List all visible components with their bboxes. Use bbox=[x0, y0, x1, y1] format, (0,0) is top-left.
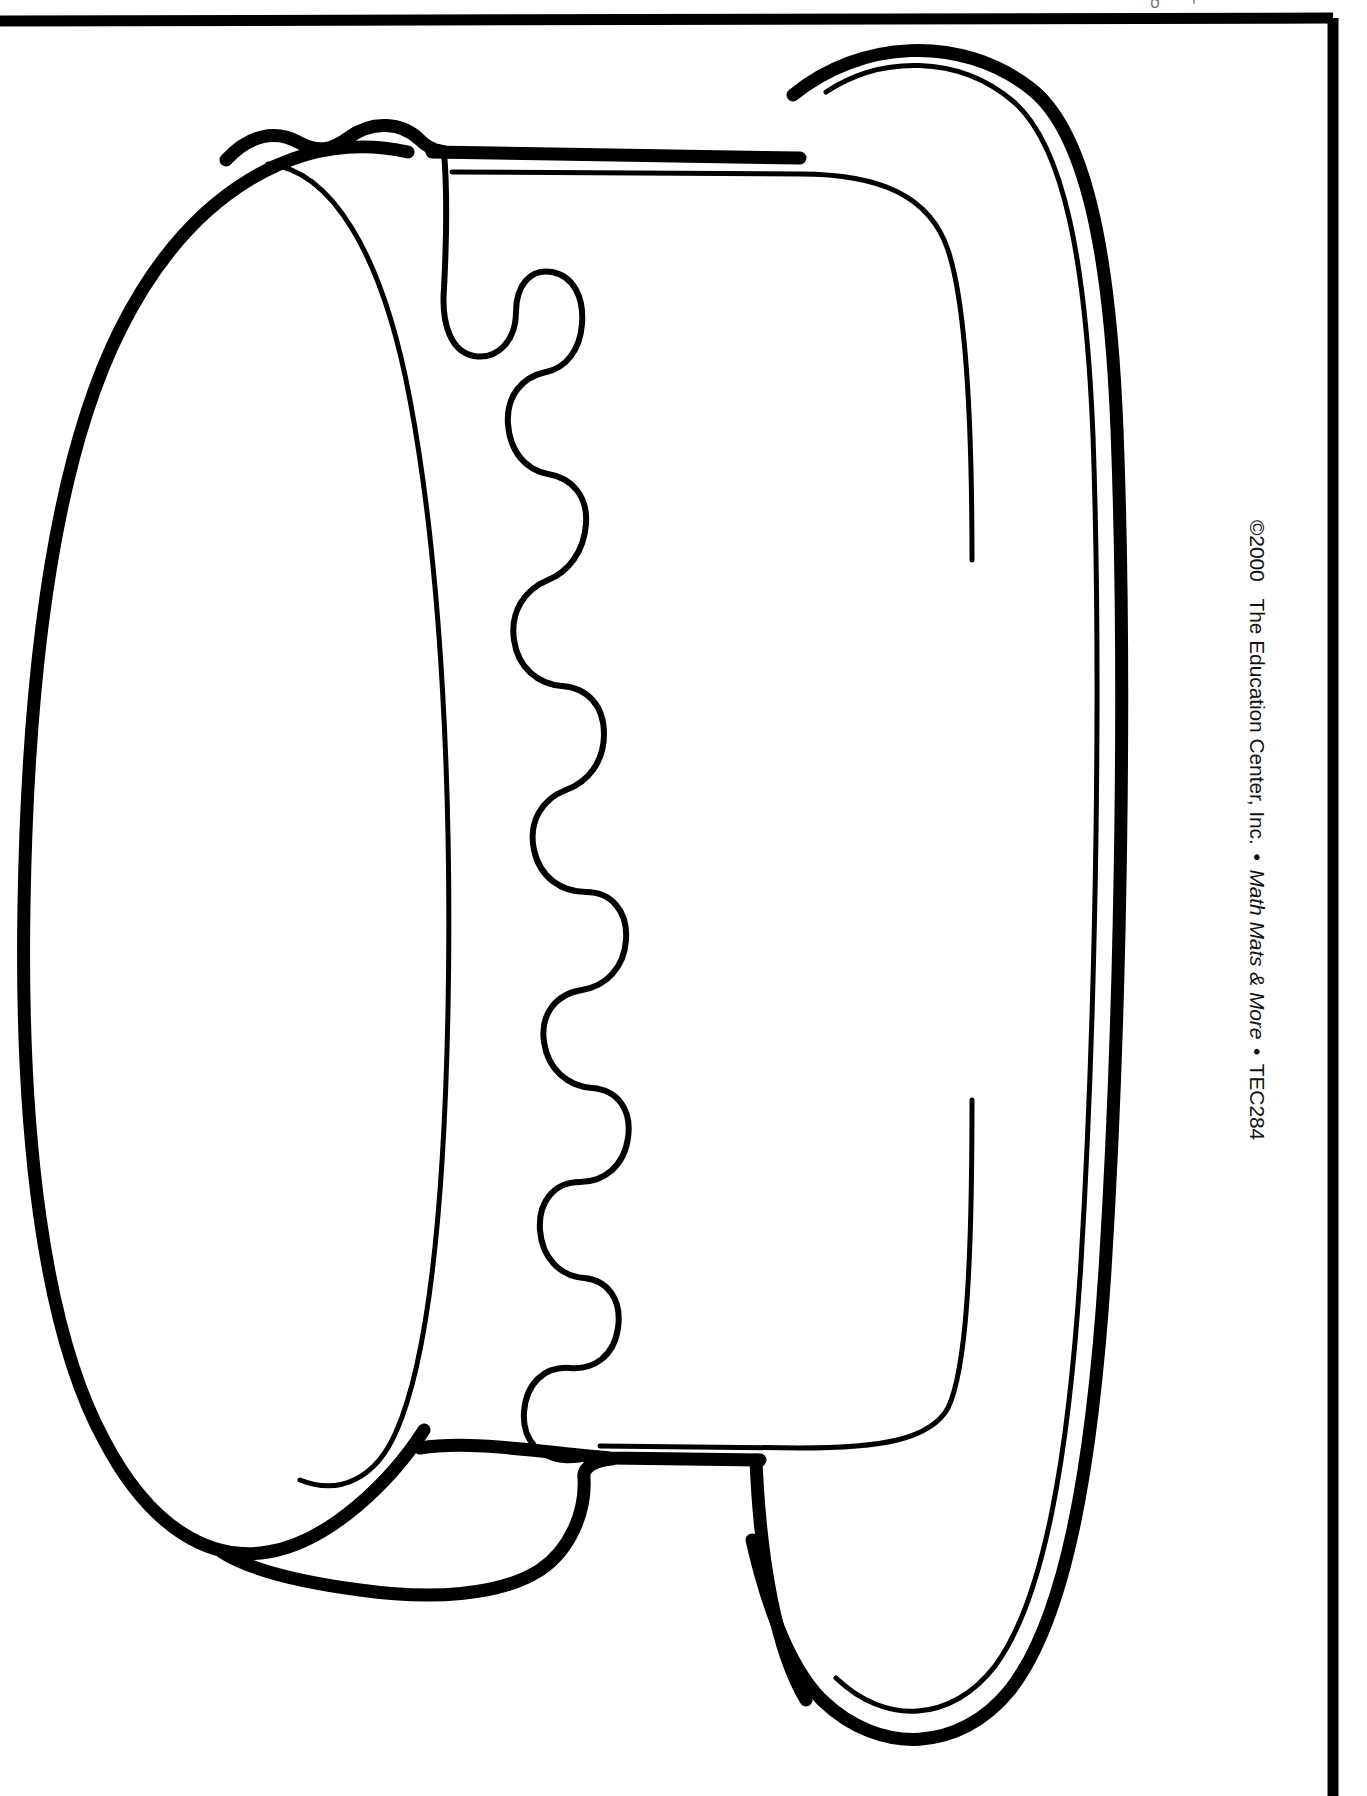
copyright-item-code: TEC284 bbox=[1246, 1064, 1269, 1140]
copyright-year: ©2000 bbox=[1246, 520, 1269, 582]
copyright-separator-2: • bbox=[1246, 1045, 1269, 1058]
page-canvas: י ס ©2000 bbox=[0, 0, 1367, 1796]
right-end-oval-outer bbox=[752, 50, 1122, 1739]
copyright-credit: ©2000 The Education Center, Inc. • Math … bbox=[1242, 520, 1272, 1220]
copyright-separator-1: • bbox=[1246, 850, 1269, 863]
copyright-publisher: The Education Center, Inc. bbox=[1246, 599, 1269, 845]
cylinder-top-band bbox=[432, 152, 800, 158]
frosting-bottom-scallops bbox=[222, 1459, 612, 1595]
cylinder-bottom-inner-edge bbox=[600, 1100, 972, 1448]
frosting-drip-wavy-edge bbox=[444, 152, 629, 1460]
cylinder-top-inner-edge bbox=[452, 172, 972, 560]
left-end-oval-outer bbox=[24, 147, 424, 1554]
cake-pattern-artwork bbox=[0, 0, 1367, 1796]
copyright-product-title: Math Mats & More bbox=[1246, 869, 1269, 1039]
left-end-oval-inner bbox=[268, 164, 449, 1486]
